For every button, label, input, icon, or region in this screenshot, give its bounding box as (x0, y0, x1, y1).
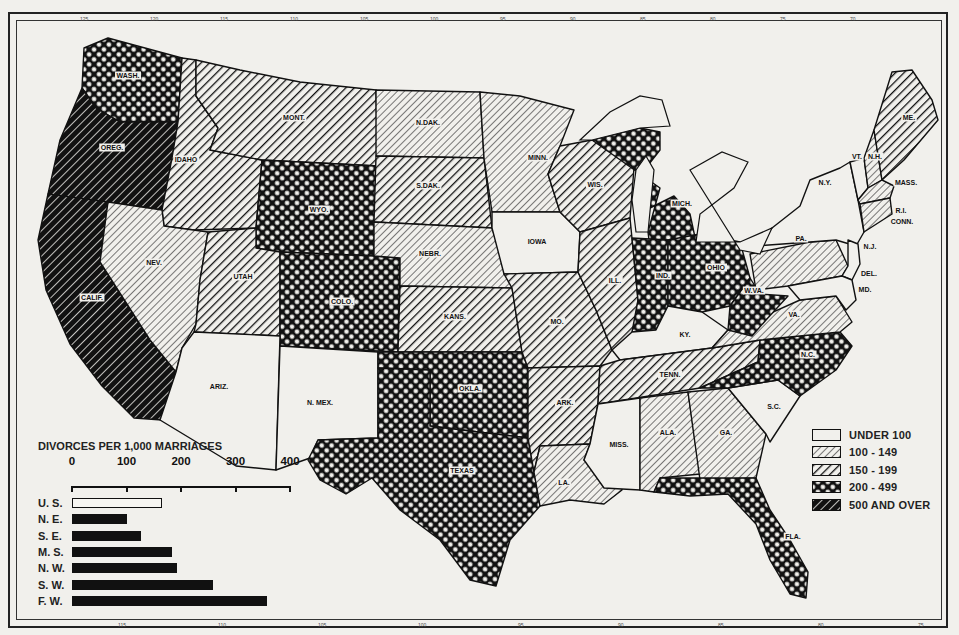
legend-swatch-none (812, 429, 841, 441)
state-ny (756, 162, 864, 246)
bar (72, 498, 162, 508)
state-label: OHIO (707, 264, 725, 271)
state-label: OKLA. (459, 385, 481, 392)
legend-item-150-199: 150 - 199 (812, 461, 930, 479)
bar (72, 596, 267, 606)
legend-swatch-light-hatch (812, 446, 841, 458)
legend-swatch-dense-hatch (812, 499, 841, 511)
state-label: WASH. (117, 72, 140, 79)
bar-row: M. S. (38, 545, 308, 559)
state-label: DEL. (861, 270, 877, 277)
x-axis-tick-label: 0 (69, 455, 75, 467)
state-label: MISS. (609, 441, 628, 448)
state-label: GA. (720, 429, 733, 436)
state-mont (196, 60, 378, 166)
state-label: S.DAK. (416, 182, 440, 189)
state-label: VT. (852, 153, 862, 160)
bar (72, 514, 127, 524)
bar-label: N. W. (38, 562, 70, 574)
state-label: ARK. (556, 399, 573, 406)
state-label: MD. (859, 286, 872, 293)
regional-divorce-bar-chart: DIVORCES PER 1,000 MARRIAGES 01002003004… (38, 439, 308, 609)
state-label: CONN. (891, 218, 914, 225)
state-label: WIS. (587, 181, 602, 188)
state-label: N.J. (864, 243, 877, 250)
x-axis-tick (126, 486, 128, 492)
legend-swatch-medium-hatch (812, 464, 841, 476)
state-label: PA. (795, 235, 806, 242)
state-label: N.Y. (819, 179, 832, 186)
state-label: COLO. (331, 298, 353, 305)
state-label: ILL. (609, 277, 621, 284)
state-label: LA. (558, 479, 569, 486)
bar-row: U. S. (38, 496, 308, 510)
bar-label: F. W. (38, 595, 70, 607)
x-axis-tick-label: 100 (117, 455, 136, 467)
legend-item-500-over: 500 AND OVER (812, 496, 930, 514)
legend-item-100-149: 100 - 149 (812, 444, 930, 462)
state-label: TEXAS (450, 467, 474, 474)
state-label: NEBR. (419, 250, 441, 257)
x-axis-tick-labels: 0100200300400 (38, 455, 308, 469)
bar-label: S. W. (38, 579, 70, 591)
bar (72, 580, 213, 590)
state-label: MO. (550, 318, 563, 325)
state-label: UTAH (234, 273, 253, 280)
legend-label: 200 - 499 (849, 481, 897, 493)
legend-item-200-499: 200 - 499 (812, 479, 930, 497)
bar-row: F. W. (38, 594, 308, 608)
state-label: MASS. (895, 179, 917, 186)
bar (72, 547, 172, 557)
bar-label: N. E. (38, 513, 70, 525)
state-label: MINN. (528, 154, 548, 161)
bar (72, 563, 177, 573)
state-label: ME. (903, 114, 916, 121)
bar-row: N. E. (38, 512, 308, 526)
x-axis-tick (235, 486, 237, 492)
state-label: KY. (680, 331, 691, 338)
legend-item-under-100: UNDER 100 (812, 426, 930, 444)
state-label: TENN. (660, 371, 681, 378)
state-label: KANS. (444, 313, 466, 320)
state-label: CALIF. (81, 294, 103, 301)
state-label: ALA. (660, 429, 676, 436)
state-label: IOWA (528, 238, 547, 245)
state-label: S.C. (767, 403, 781, 410)
legend-swatch-crosshatch (812, 481, 841, 493)
bar-label: M. S. (38, 546, 70, 558)
state-label: N. MEX. (307, 399, 333, 406)
state-label: IDAHO (175, 156, 198, 163)
bar-row: S. E. (38, 529, 308, 543)
state-label: FLA. (785, 533, 801, 540)
state-label: OREG. (101, 144, 124, 151)
legend-label: UNDER 100 (849, 429, 911, 441)
state-label: W.VA. (744, 287, 763, 294)
state-label: MICH. (672, 200, 692, 207)
legend: UNDER 100 100 - 149 150 - 199 200 - 499 … (812, 426, 930, 514)
bar-row: S. W. (38, 578, 308, 592)
lake-huron-erie (690, 152, 772, 254)
x-axis-tick (289, 486, 291, 492)
state-label: ARIZ. (210, 383, 228, 390)
state-label: NEV. (146, 259, 162, 266)
legend-label: 500 AND OVER (849, 499, 930, 511)
bar-label: S. E. (38, 530, 70, 542)
state-conn-ri (860, 198, 892, 232)
state-label: WYO. (310, 206, 329, 213)
state-me (874, 70, 938, 180)
legend-label: 150 - 199 (849, 464, 897, 476)
state-label: N.C. (801, 351, 815, 358)
x-axis-tick (180, 486, 182, 492)
state-label: R.I. (896, 207, 907, 214)
x-axis-tick-label: 200 (171, 455, 190, 467)
state-label: MONT. (283, 114, 305, 121)
x-axis-tick-label: 400 (280, 455, 299, 467)
state-label: N.DAK. (416, 119, 440, 126)
x-axis-tick (71, 486, 73, 492)
state-label: VA. (788, 311, 799, 318)
bar-label: U. S. (38, 497, 70, 509)
bar-row: N. W. (38, 561, 308, 575)
x-axis-tick-label: 300 (226, 455, 245, 467)
state-sdak (374, 156, 492, 228)
state-label: IND. (656, 272, 670, 279)
